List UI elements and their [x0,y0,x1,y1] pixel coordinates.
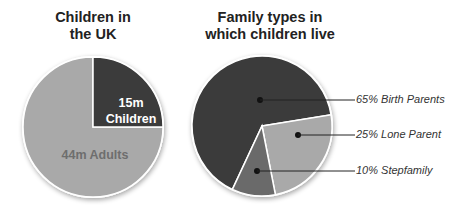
pie-family-types [191,55,333,197]
label-line: Children [102,111,160,127]
label-adults: 44m Adults [40,148,150,162]
label-line: 15m [102,95,160,111]
label-birth-parents: 65% Birth Parents [356,93,445,105]
label-stepfamily: 10% Stepfamily [356,164,432,176]
pie-children-uk [22,56,164,198]
pie-charts [0,0,460,212]
label-children: 15m Children [102,95,160,127]
label-lone-parent: 25% Lone Parent [356,128,441,140]
